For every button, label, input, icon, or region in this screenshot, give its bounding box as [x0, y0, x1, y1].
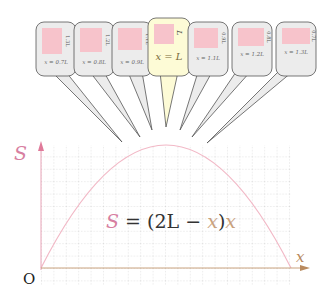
side-label: 1.3L — [65, 35, 71, 47]
origin-label: O — [23, 270, 35, 288]
x-label: x = 0.8L — [82, 59, 106, 65]
callout-0-7L: 1.3L x = 0.7L — [36, 22, 76, 76]
equation-x1: x — [207, 210, 218, 232]
diagram-svg: 1.3L x = 0.7L 1.2L x = 0.8L 1.1L x = 0.9… — [0, 0, 331, 292]
callout-0-8L: 1.2L x = 0.8L — [74, 22, 114, 76]
equation-x2: x — [225, 210, 236, 232]
y-axis-label: S — [14, 142, 27, 164]
equation-middle: = (2L − — [119, 210, 207, 232]
x-label: x = L — [155, 51, 182, 62]
equation-S: S — [106, 210, 119, 232]
side-label: L — [175, 29, 184, 35]
x-label: x = 0.9L — [120, 59, 144, 65]
side-label: 0.7L — [311, 30, 317, 42]
side-label: 0.9L — [221, 32, 227, 44]
callout-1-2L: 0.8L x = 1.2L — [232, 22, 272, 76]
side-label: 0.8L — [266, 31, 272, 43]
x-label: x = 0.7L — [44, 59, 68, 65]
callout-L: L x = L — [148, 18, 190, 76]
x-label: x = 1.3L — [284, 49, 308, 55]
equation: S = (2L − x)x — [106, 210, 236, 232]
x-label: x = 1.1L — [196, 55, 220, 61]
side-label: 1.2L — [105, 34, 111, 46]
equation-close: ) — [218, 210, 225, 232]
callout-tails — [52, 72, 292, 143]
x-label: x = 1.2L — [240, 51, 264, 57]
callout-1-1L: 0.9L x = 1.1L — [188, 22, 228, 76]
parabola-diagram: 1.3L x = 0.7L 1.2L x = 0.8L 1.1L x = 0.9… — [0, 0, 331, 292]
x-axis-label: x — [296, 248, 305, 266]
callout-0-9L: 1.1L x = 0.9L — [112, 22, 152, 76]
callout-1-3L: 0.7L x = 1.3L — [276, 22, 317, 76]
